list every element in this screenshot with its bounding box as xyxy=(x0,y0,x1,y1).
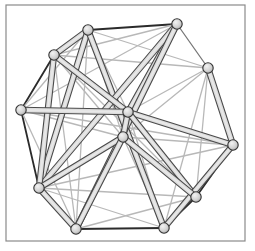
graph-node[interactable] xyxy=(16,105,26,115)
graph-edge[interactable] xyxy=(21,110,128,112)
graph-diagram[interactable] xyxy=(0,0,255,251)
graph-node[interactable] xyxy=(228,140,238,150)
graph-node[interactable] xyxy=(118,132,128,142)
figure-root xyxy=(0,0,255,251)
graph-node[interactable] xyxy=(123,107,133,117)
graph-node[interactable] xyxy=(83,25,93,35)
graph-node[interactable] xyxy=(71,224,81,234)
graph-node[interactable] xyxy=(203,63,213,73)
graph-node[interactable] xyxy=(172,19,182,29)
graph-node[interactable] xyxy=(191,192,201,202)
graph-node[interactable] xyxy=(49,50,59,60)
graph-node[interactable] xyxy=(34,183,44,193)
graph-node[interactable] xyxy=(159,223,169,233)
graph-edge[interactable] xyxy=(76,228,164,229)
